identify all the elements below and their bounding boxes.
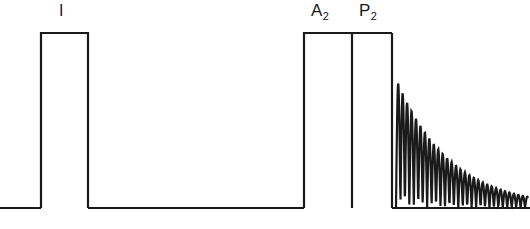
- label-pulmonic-subscript: 2: [371, 10, 377, 22]
- label-aortic-base: A: [311, 1, 322, 20]
- decrescendo-murmur: [396, 83, 528, 208]
- phonocardiogram-figure: I A2 P2: [0, 0, 530, 229]
- label-aortic-subscript: 2: [323, 10, 329, 22]
- aortic-pulse-rise: [304, 33, 392, 208]
- label-aortic-component: A2: [311, 2, 328, 19]
- waveform-trace: [0, 0, 530, 229]
- label-pulmonic-component: P2: [359, 2, 376, 19]
- label-pulmonic-base: P: [359, 1, 370, 20]
- label-first-heart-sound: I: [59, 3, 63, 19]
- first-sound-pulse: [41, 33, 88, 208]
